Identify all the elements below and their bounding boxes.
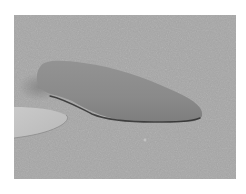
scene [14, 15, 236, 179]
photograph [14, 15, 236, 179]
surface-speck [144, 139, 147, 142]
